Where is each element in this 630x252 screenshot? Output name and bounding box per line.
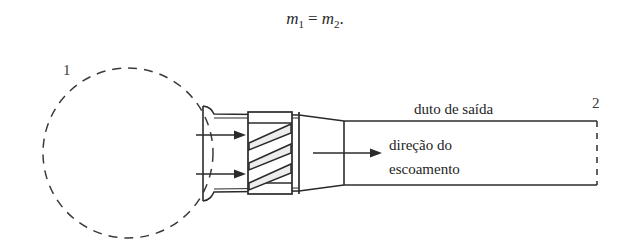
mass-flow-symbol-2: m — [322, 6, 334, 32]
flow-direction-label-line1: direção do — [389, 137, 452, 153]
fan-rotor-assembly — [248, 112, 292, 194]
nozzle-upper-wall — [299, 115, 344, 121]
outlet-duct-label: duto de saída — [414, 101, 493, 117]
station-1-label: 1 — [63, 62, 71, 78]
ducted-fan-diagram: 1 2 duto de saída direção do escoamento — [0, 44, 630, 252]
mass-flow-letter-2: m — [322, 9, 334, 28]
control-volume-circle — [43, 68, 213, 238]
nozzle-lower-wall — [299, 185, 344, 191]
station-2-label: 2 — [592, 95, 600, 111]
figure-page: m1=m2. — [0, 0, 630, 252]
equals-sign: = — [304, 9, 322, 28]
mass-flow-letter-1: m — [286, 9, 298, 28]
equation-mass-flow-balance: m1=m2. — [0, 6, 630, 37]
outlet-flow-arrow — [313, 149, 382, 158]
equation-period: . — [339, 9, 343, 28]
flow-direction-label-line2: escoamento — [389, 161, 460, 177]
mass-flow-symbol-1: m — [286, 6, 298, 32]
